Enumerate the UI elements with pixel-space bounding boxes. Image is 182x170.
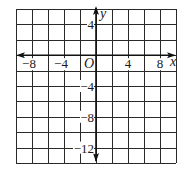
coordinate-plane: −8−4484−4−8−12 O x y [0, 0, 182, 170]
x-tick-label: −4 [54, 56, 68, 71]
y-tick-label: 4 [88, 17, 95, 32]
x-tick-label: −8 [22, 56, 36, 71]
y-axis-label: y [98, 6, 107, 21]
y-tick-label: −12 [74, 141, 94, 156]
origin-label: O [84, 56, 94, 71]
y-tick-label: −4 [80, 79, 94, 94]
x-axis-label: x [169, 54, 177, 69]
x-tick-label: 4 [125, 56, 132, 71]
x-tick-label: 8 [157, 56, 164, 71]
y-tick-label: −8 [80, 110, 94, 125]
